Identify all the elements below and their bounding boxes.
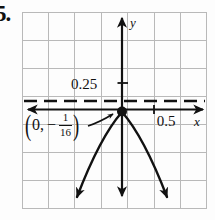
vertex-annotation: ( 0 , − 1 16 ): [24, 112, 80, 138]
vertex-comma: ,: [40, 116, 44, 134]
y-tick-label-025: 0.25: [71, 76, 97, 92]
vertex-x-value: 0: [32, 116, 40, 134]
x-axis-label: x: [193, 114, 200, 129]
y-axis-label: y: [128, 15, 136, 30]
vertex-minus-sign: −: [47, 116, 56, 134]
math-figure: 5.: [0, 0, 215, 220]
fraction-numerator: 1: [61, 112, 71, 124]
coordinate-plane: 0.25 0.5 x y: [0, 0, 215, 220]
vertex-fraction: 1 16: [59, 112, 72, 138]
vertex-point: [117, 107, 127, 117]
fraction-denominator: 16: [59, 127, 72, 139]
x-tick-label-05: 0.5: [157, 113, 176, 129]
